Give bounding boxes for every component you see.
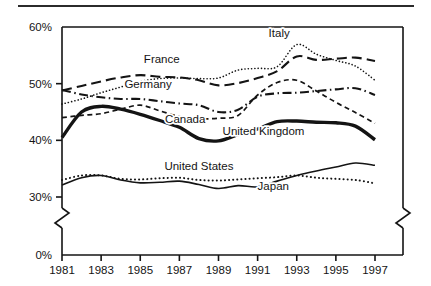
series-label-canada: Canada: [165, 113, 206, 125]
series-line-france: [62, 56, 375, 90]
chart-axes: [55, 27, 410, 261]
y-tick-label: 60%: [29, 21, 52, 33]
chart-figure: ItalyItalyFranceFranceGermanyGermanyCana…: [0, 0, 431, 286]
x-tick-label: 1995: [323, 264, 349, 276]
x-tick-label: 1981: [49, 264, 75, 276]
x-tick-label: 1985: [127, 264, 153, 276]
series-line-italy: [62, 44, 375, 104]
series-line-germany: [62, 88, 375, 112]
series-label-france: France: [144, 53, 180, 65]
chart-tick-labels: 0%30%40%50%60%19811983198519871989199119…: [29, 21, 388, 276]
series-label-united-kingdom: United Kingdom: [223, 125, 305, 137]
series-label-germany: Germany: [124, 78, 172, 90]
chart-series-labels: ItalyItalyFranceFranceGermanyGermanyCana…: [124, 27, 304, 192]
x-tick-label: 1991: [245, 264, 271, 276]
line-chart-plot: ItalyItalyFranceFranceGermanyGermanyCana…: [0, 0, 431, 286]
x-tick-label: 1983: [88, 264, 114, 276]
x-tick-label: 1987: [167, 264, 193, 276]
y-tick-label: 0%: [35, 249, 52, 261]
y-tick-label: 50%: [29, 78, 52, 90]
y-tick-label: 30%: [29, 191, 52, 203]
series-label-italy: Italy: [269, 27, 290, 39]
series-label-united-states: United States: [164, 160, 233, 172]
x-tick-label: 1997: [362, 264, 388, 276]
y-tick-label: 40%: [29, 134, 52, 146]
x-tick-label: 1989: [206, 264, 232, 276]
x-tick-label: 1993: [284, 264, 310, 276]
series-label-japan: Japan: [258, 180, 289, 192]
